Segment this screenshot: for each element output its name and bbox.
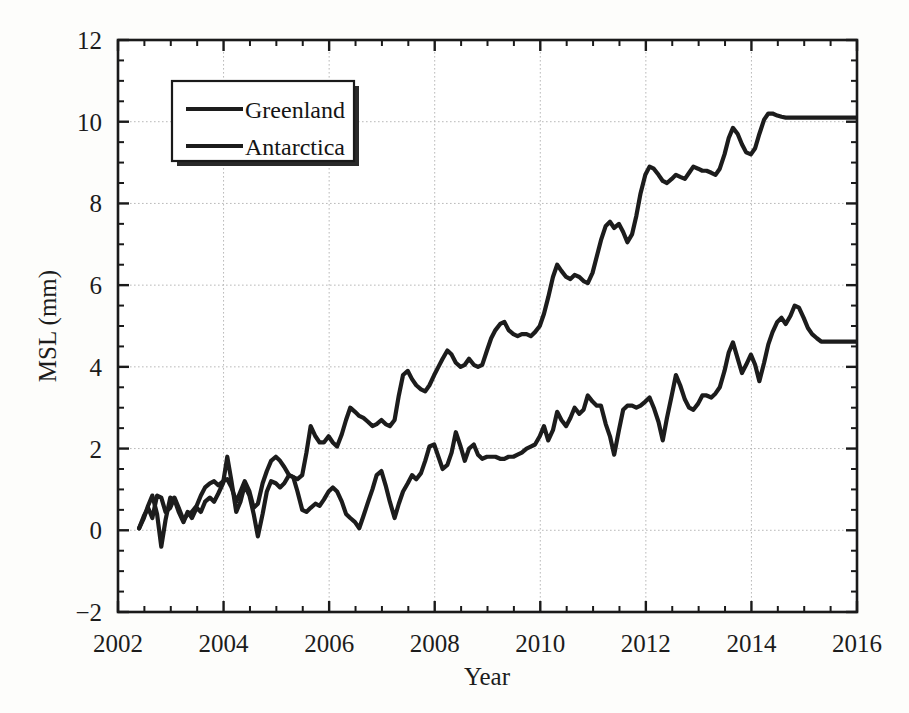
y-tick-label: 0 — [90, 517, 103, 544]
x-tick-label: 2002 — [93, 630, 143, 657]
x-tick-label: 2006 — [304, 630, 354, 657]
y-tick-label: 12 — [77, 27, 102, 54]
x-tick-label: 2016 — [832, 630, 882, 657]
y-tick-label: −2 — [75, 599, 102, 626]
y-tick-label: 2 — [90, 436, 103, 463]
legend-label-antarctica: Antarctica — [245, 134, 345, 160]
x-tick-label: 2012 — [621, 630, 671, 657]
legend-label-greenland: Greenland — [245, 97, 345, 123]
y-tick-label: 4 — [90, 354, 103, 381]
figure-canvas: 20022004200620082010201220142016 −202468… — [0, 0, 909, 713]
y-tick-label: 8 — [90, 190, 103, 217]
y-axis-title: MSL (mm) — [34, 270, 62, 382]
x-axis-tick-labels: 20022004200620082010201220142016 — [93, 630, 882, 657]
chart-legend: Greenland Antarctica — [172, 81, 359, 166]
x-tick-label: 2014 — [726, 630, 777, 657]
x-tick-label: 2004 — [199, 630, 250, 657]
x-tick-label: 2008 — [410, 630, 460, 657]
y-tick-label: 6 — [90, 272, 103, 299]
x-tick-label: 2010 — [515, 630, 565, 657]
x-axis-title: Year — [464, 663, 511, 690]
y-tick-label: 10 — [77, 109, 102, 136]
y-axis-tick-labels: −2024681012 — [75, 27, 102, 626]
chart-svg: 20022004200620082010201220142016 −202468… — [0, 0, 909, 713]
